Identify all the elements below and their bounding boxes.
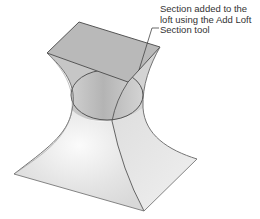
callout-line-1: Section added to the bbox=[160, 4, 260, 15]
callout-label: Section added to the loft using the Add … bbox=[160, 4, 260, 36]
callout-line-3: Section tool bbox=[160, 25, 260, 36]
